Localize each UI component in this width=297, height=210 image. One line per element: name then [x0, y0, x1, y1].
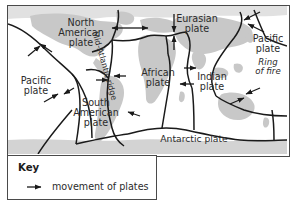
key-entry-label: movement of plates	[52, 181, 149, 192]
plate-tectonics-figure: North American plate Pacific plate South…	[0, 0, 297, 210]
world-map-graphic	[8, 6, 287, 154]
key-title: Key	[18, 162, 39, 173]
key-entry-movement-of-plates: movement of plates	[26, 181, 149, 192]
key-legend-box: Key movement of plates	[7, 155, 157, 200]
arrow-right-icon	[26, 182, 48, 192]
world-map-panel: North American plate Pacific plate South…	[7, 5, 290, 157]
